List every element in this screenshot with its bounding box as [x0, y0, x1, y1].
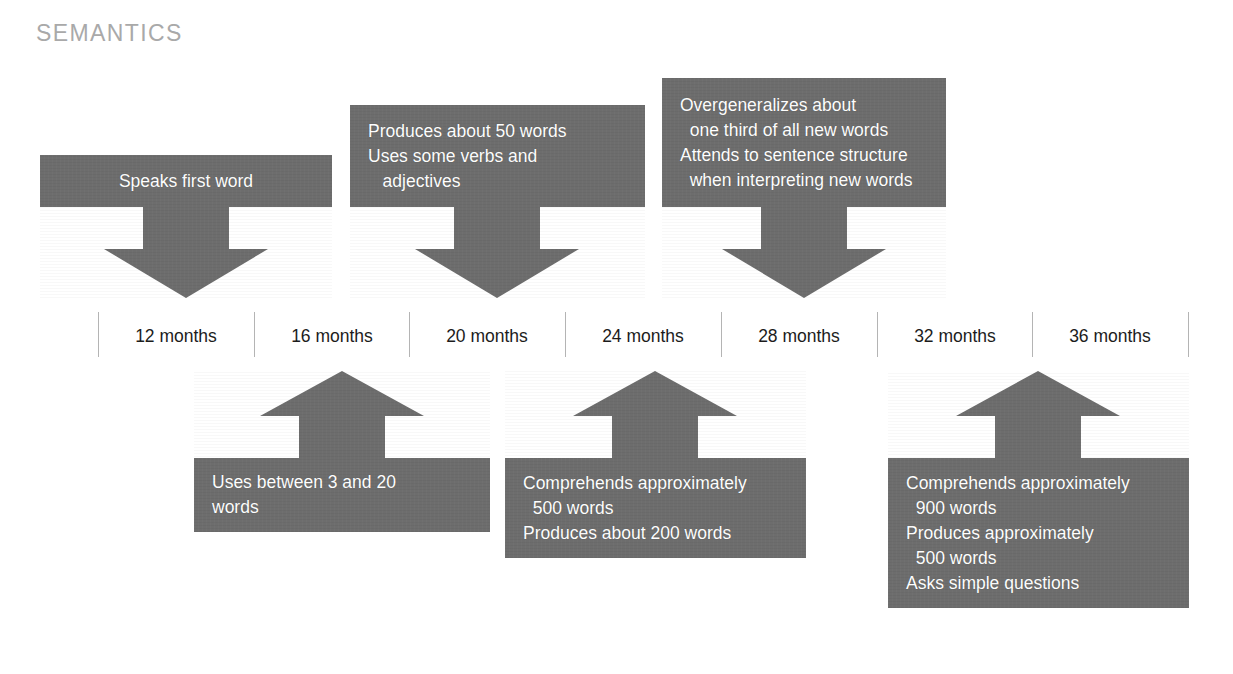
axis-tick-label: 24 months: [565, 326, 721, 347]
axis-tick-label: 28 months: [721, 326, 877, 347]
axis-tick-label: 20 months: [409, 326, 565, 347]
axis-tick-label: 36 months: [1032, 326, 1188, 347]
milestone-text: Speaks first word: [40, 169, 332, 194]
milestone-callout-up: Comprehends approximately 500 words Prod…: [505, 371, 806, 558]
milestone-text: Comprehends approximately 500 words Prod…: [523, 471, 796, 546]
milestone-callout-down: Produces about 50 words Uses some verbs …: [350, 105, 645, 298]
milestone-callout-down: Overgeneralizes about one third of all n…: [662, 78, 946, 298]
timeline-axis: 12 months16 months20 months24 months28 m…: [98, 312, 1188, 360]
milestone-callout-down: Speaks first word: [40, 155, 332, 298]
page-title: SEMANTICS: [36, 20, 183, 47]
axis-tick-label: 16 months: [254, 326, 410, 347]
diagram-canvas: SEMANTICS 12 months16 months20 months24 …: [0, 0, 1233, 674]
milestone-callout-up: Comprehends approximately 900 words Prod…: [888, 371, 1189, 608]
axis-tick-label: 32 months: [877, 326, 1033, 347]
milestone-text: Overgeneralizes about one third of all n…: [680, 93, 936, 193]
axis-tick: [1188, 312, 1189, 357]
milestone-text: Uses between 3 and 20 words: [212, 470, 480, 520]
milestone-text: Comprehends approximately 900 words Prod…: [906, 471, 1179, 596]
milestone-callout-up: Uses between 3 and 20 words: [194, 371, 490, 532]
axis-tick-label: 12 months: [98, 326, 254, 347]
milestone-text: Produces about 50 words Uses some verbs …: [368, 119, 635, 194]
